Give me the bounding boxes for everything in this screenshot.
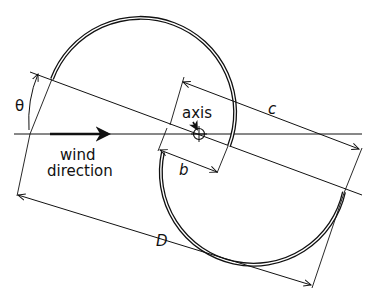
savonius-rotor-diagram: axis wind direction θ c b D [0,0,375,298]
D-label: D [156,232,168,250]
axis-marker [191,122,207,142]
c-label: c [268,100,277,118]
b-extension-left [158,128,167,151]
b-label: b [179,161,189,179]
upper-blade [52,18,235,146]
c-extension-right [344,148,362,193]
axis-label: axis [182,104,212,122]
D-extension-left [17,134,30,196]
theta-arc [29,74,38,130]
wind-label-line2: direction [47,162,113,180]
theta-label: θ [15,97,24,115]
b-extension-right [217,146,228,173]
